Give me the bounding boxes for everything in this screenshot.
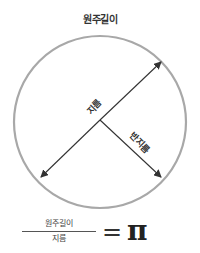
equals-sign: = <box>102 218 122 246</box>
pi-diagram: 원주길이 지름 반지름 원주길이 지름 = π <box>0 0 200 253</box>
diameter-arrow-lower <box>41 120 100 177</box>
circumference-label: 원주길이 <box>0 11 200 26</box>
circle-diagram-svg <box>0 0 200 253</box>
fraction-bar <box>22 231 96 232</box>
formula-denominator: 지름 <box>22 234 96 244</box>
formula-numerator: 원주길이 <box>22 219 96 231</box>
radius-arrow <box>100 120 161 177</box>
diameter-arrow <box>100 62 161 120</box>
formula-fraction: 원주길이 지름 <box>22 219 96 244</box>
pi-symbol: π <box>127 216 148 246</box>
circle-circumference <box>14 36 186 208</box>
